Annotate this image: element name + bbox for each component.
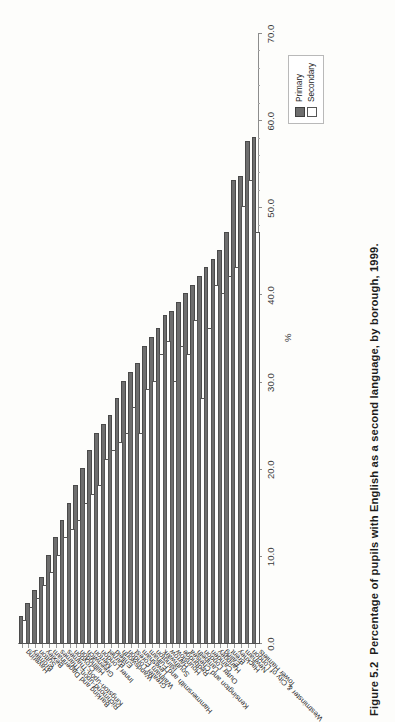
bar-secondary [241, 206, 246, 644]
bar-secondary [49, 572, 54, 644]
bar-secondary [180, 346, 185, 644]
rotated-page-host: 0.010.020.030.040.050.060.070.0 Tower Ha… [0, 0, 395, 722]
value-axis-title: % [282, 333, 293, 342]
axis-tick-label: 10.0 [265, 548, 276, 567]
axis-minor-tick [258, 85, 260, 86]
chart-legend: Primary Secondary [288, 55, 324, 124]
axis-minor-tick [258, 155, 260, 156]
bar-secondary [145, 389, 150, 644]
bar-secondary [97, 485, 102, 644]
bar-secondary [56, 555, 61, 644]
axis-tick [258, 120, 262, 121]
bar-secondary [159, 354, 164, 644]
figure-caption: Figure 5.2Percentage of pupils with Engl… [368, 4, 380, 716]
category-tick [22, 644, 23, 648]
bar-secondary [132, 407, 137, 644]
legend-item-primary: Primary [294, 63, 305, 117]
bar-secondary [90, 494, 95, 644]
bar-secondary [125, 433, 130, 644]
legend-swatch-secondary [307, 107, 317, 117]
bar-secondary [214, 285, 219, 644]
bar-secondary [36, 598, 41, 644]
axis-minor-tick [258, 190, 260, 191]
bar-secondary [186, 354, 191, 644]
axis-tick-label: 20.0 [265, 460, 276, 479]
bar-secondary [152, 381, 157, 644]
axis-tick-label: 60.0 [265, 112, 276, 131]
bar-secondary [138, 433, 143, 644]
bar-secondary [111, 450, 116, 644]
legend-label-secondary: Secondary [307, 63, 316, 102]
legend-label-primary: Primary [295, 74, 304, 102]
figure-caption-text: Percentage of pupils with English as a s… [368, 243, 380, 654]
bar-secondary [193, 320, 198, 644]
axis-minor-tick [258, 172, 260, 173]
axis-tick-label: 70.0 [265, 25, 276, 44]
axis-minor-tick [258, 50, 260, 51]
axis-minor-tick [258, 138, 260, 139]
bar-secondary [166, 341, 171, 644]
axis-tick-label: 50.0 [265, 199, 276, 218]
axis-tick-label: 40.0 [265, 286, 276, 305]
axis-minor-tick [258, 68, 260, 69]
bar-secondary [42, 585, 47, 644]
legend-item-secondary: Secondary [306, 63, 317, 117]
bar-secondary [255, 232, 260, 644]
bar-secondary [234, 267, 239, 644]
bar-secondary [22, 620, 27, 644]
bar-secondary [70, 529, 75, 644]
bar-secondary [84, 503, 89, 644]
bar-secondary [228, 276, 233, 644]
axis-tick-label: 0.0 [265, 637, 276, 650]
bar-secondary [200, 398, 205, 644]
axis-minor-tick [258, 103, 260, 104]
bar-secondary [29, 607, 34, 644]
axis-tick [258, 33, 262, 34]
bar-secondary [221, 293, 226, 644]
bar-chart: 0.010.020.030.040.050.060.070.0 Tower Ha… [0, 22, 360, 722]
bar-secondary [118, 442, 123, 644]
bar-secondary [77, 520, 82, 644]
bar-secondary [173, 381, 178, 644]
figure-number: Figure 5.2 [368, 662, 380, 716]
bar-secondary [104, 459, 109, 644]
bar-secondary [248, 180, 253, 644]
bar-secondary [207, 328, 212, 644]
axis-tick-label: 30.0 [265, 373, 276, 392]
axis-tick [258, 207, 262, 208]
bar-secondary [63, 537, 68, 644]
axis-minor-tick [258, 225, 260, 226]
legend-swatch-primary [295, 107, 305, 117]
